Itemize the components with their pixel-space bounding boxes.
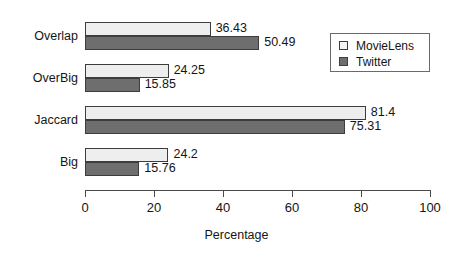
bar-movielens-big xyxy=(85,148,168,162)
x-tick xyxy=(292,191,293,197)
legend-label-movielens: MovieLens xyxy=(356,40,414,52)
x-axis-title: Percentage xyxy=(0,228,463,242)
y-axis-label-overlap: Overlap xyxy=(4,29,78,43)
bar-value-label: 24.2 xyxy=(173,147,197,161)
bar-movielens-overbig xyxy=(85,64,169,78)
x-tick-label: 100 xyxy=(419,200,441,215)
x-tick xyxy=(223,191,224,197)
bar-value-label: 36.43 xyxy=(216,21,247,35)
bar-group: 24.215.76 xyxy=(85,148,430,177)
x-tick xyxy=(361,191,362,197)
bar-value-label: 81.4 xyxy=(371,105,395,119)
y-axis-labels: OverlapOverBigJaccardBig xyxy=(0,22,78,190)
bar-group: 81.475.31 xyxy=(85,106,430,135)
bar-twitter-jaccard xyxy=(85,120,345,134)
bar-value-label: 15.85 xyxy=(145,77,176,91)
bar-movielens-jaccard xyxy=(85,106,366,120)
legend-item-movielens: MovieLens xyxy=(339,38,414,53)
x-tick-label: 80 xyxy=(354,200,368,215)
bar-movielens-overlap xyxy=(85,22,211,36)
x-axis-title-text: Percentage xyxy=(205,228,269,242)
x-tick-label: 20 xyxy=(147,200,161,215)
bar-twitter-overlap xyxy=(85,36,259,50)
bar-twitter-big xyxy=(85,162,139,176)
x-tick-label: 40 xyxy=(216,200,230,215)
bar-value-label: 15.76 xyxy=(144,161,175,175)
y-axis-label-big: Big xyxy=(4,155,78,169)
x-tick xyxy=(430,191,431,197)
y-axis-label-overbig: OverBig xyxy=(4,71,78,85)
legend-item-twitter: Twitter xyxy=(339,54,391,69)
x-tick-label: 0 xyxy=(81,200,88,215)
x-tick xyxy=(154,191,155,197)
bar-twitter-overbig xyxy=(85,78,140,92)
x-tick-label: 60 xyxy=(285,200,299,215)
bar-chart: OverlapOverBigJaccardBig 36.4350.4924.25… xyxy=(0,0,463,265)
legend: MovieLens Twitter xyxy=(330,33,430,72)
x-tick xyxy=(85,191,86,197)
legend-swatch-movielens-icon xyxy=(339,41,348,50)
legend-swatch-twitter-icon xyxy=(339,57,348,66)
bar-value-label: 24.25 xyxy=(174,63,205,77)
x-axis-line xyxy=(85,190,430,191)
bar-value-label: 75.31 xyxy=(350,119,381,133)
y-axis-label-jaccard: Jaccard xyxy=(4,113,78,127)
legend-label-twitter: Twitter xyxy=(356,56,391,68)
bar-value-label: 50.49 xyxy=(264,35,295,49)
